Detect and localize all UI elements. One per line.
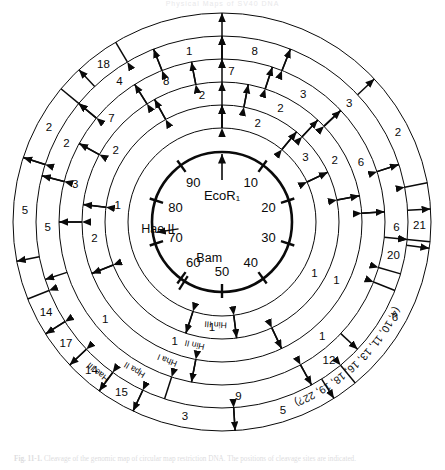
fragment-boundary xyxy=(407,240,430,242)
fragment-size-label: 1 xyxy=(171,335,177,347)
scale-tick-label: 10 xyxy=(244,175,258,190)
fragment-size-label: 4 xyxy=(116,75,123,87)
caption-label: Fig. 11-1. xyxy=(14,455,42,463)
fragment-boundary xyxy=(384,237,407,239)
fragment-size-label: 8 xyxy=(251,45,257,57)
fragment-size-label: 3 xyxy=(182,410,188,422)
fragment-boundary xyxy=(92,265,113,273)
scale-tick-label: 90 xyxy=(186,175,200,190)
fragment-boundary xyxy=(135,84,147,103)
fragment-size-label: 2 xyxy=(395,126,401,138)
fragment-size-label: 7 xyxy=(108,112,114,124)
fragment-size-label: 2 xyxy=(199,89,205,101)
fragment-boundary xyxy=(234,315,237,338)
fragment-size-label: 18 xyxy=(97,58,110,70)
fragment-boundary xyxy=(133,390,143,411)
fragment-size-label: 1 xyxy=(102,313,108,325)
multi-fragment-note: (4, 10, 11, 13, 16, 18, 19, 22?) xyxy=(293,305,403,409)
scale-ticks-group: 102030405060708090EcoR₁Hae IIBam xyxy=(141,154,294,298)
fragment-size-label: 1 xyxy=(186,45,192,57)
fragment-boundary xyxy=(324,110,341,126)
hae2-site-label: Hae II xyxy=(141,222,174,236)
caption-text: Cleavage of the genomic map of circular … xyxy=(44,455,356,463)
fragment-boundary xyxy=(302,120,318,137)
ring-enzyme-label-3: Hpa II xyxy=(122,360,147,380)
fragment-boundary xyxy=(374,282,395,290)
ring-enzyme-label-2: Hha I xyxy=(156,352,179,369)
scale-tick-label: 50 xyxy=(215,264,229,279)
fragment-boundary xyxy=(307,172,328,182)
fragment-size-label: 8 xyxy=(163,75,169,87)
bottom-note-group: (4, 10, 11, 13, 16, 18, 19, 22?) xyxy=(293,304,404,410)
fragment-boundary xyxy=(116,42,128,62)
fragment-boundary xyxy=(282,49,290,70)
fragment-boundary xyxy=(272,328,282,349)
ring-enzyme-label-1: Hin II xyxy=(184,338,206,352)
scale-tick-label: 20 xyxy=(261,200,275,215)
fragment-boundary xyxy=(83,204,106,207)
fragment-size-label: 2 xyxy=(63,137,69,149)
fragment-size-label: 5 xyxy=(22,204,28,216)
fragment-size-label: 2 xyxy=(46,121,52,133)
fragment-size-label: 1 xyxy=(319,330,325,342)
fragment-boundary xyxy=(379,267,401,273)
fragment-size-label: 7 xyxy=(228,65,234,77)
fragment-boundary xyxy=(408,209,431,210)
fragment-boundary xyxy=(337,196,360,200)
fragment-size-label: 6 xyxy=(393,221,399,233)
fragment-boundary xyxy=(407,245,430,248)
fragment-size-label: 1 xyxy=(311,267,317,279)
fragment-boundary xyxy=(79,103,97,118)
fragment-boundary xyxy=(358,79,375,95)
fragment-size-label: 21 xyxy=(413,219,426,231)
enzyme-ring-labels-group: Hin IIIHin IIHha IHpa IIHae III xyxy=(85,319,227,384)
fragment-size-label: 20 xyxy=(387,249,400,261)
fragment-boundary xyxy=(377,165,399,172)
fragment-boundary xyxy=(362,212,385,213)
fragment-boundary xyxy=(17,257,40,261)
fragment-size-label: 15 xyxy=(115,386,128,398)
fragment-boundary xyxy=(186,311,193,333)
fragment-boundary xyxy=(79,70,95,87)
fragment-boundary xyxy=(341,334,358,350)
fragment-boundary xyxy=(165,377,172,399)
fragment-boundary xyxy=(61,89,79,104)
ring-enzyme-label-0: Hin III xyxy=(204,319,227,330)
fragment-size-label: 2 xyxy=(91,232,97,244)
radial-boundaries-group xyxy=(17,13,431,431)
fragment-boundary xyxy=(244,84,248,107)
fragment-size-label: 5 xyxy=(280,404,286,416)
fragment-size-label: 9 xyxy=(235,390,241,402)
fragment-boundary xyxy=(42,176,64,182)
ring-circle-2 xyxy=(105,105,339,339)
fragment-size-label: 17 xyxy=(60,337,73,349)
fragment-size-label: 3 xyxy=(302,151,308,163)
fragment-boundary xyxy=(23,157,45,164)
fragment-size-label: 5 xyxy=(44,221,50,233)
fragment-boundary xyxy=(265,67,272,89)
fragment-size-label: 3 xyxy=(346,97,352,109)
fragment-boundary xyxy=(155,99,166,119)
scale-tick-label: 30 xyxy=(261,230,275,245)
fragment-size-label: 14 xyxy=(40,306,53,318)
fragment-size-label: 1 xyxy=(115,199,121,211)
fragment-boundary xyxy=(79,143,99,154)
ecor1-label: EcoR₁ xyxy=(204,188,241,203)
fragment-size-label: 2 xyxy=(255,117,261,129)
fragment-boundary xyxy=(191,360,195,383)
fragment-size-label: 1 xyxy=(333,274,339,286)
fragment-size-label: 6 xyxy=(358,156,364,168)
sv40-restriction-map-figure: 1231122211227361137883620912524118251417… xyxy=(0,0,445,470)
scale-tick-label: 40 xyxy=(244,255,258,270)
fragment-boundary xyxy=(191,62,195,85)
fragment-boundary xyxy=(234,408,235,431)
fragment-boundary xyxy=(45,272,67,279)
fragment-size-label: 3 xyxy=(300,88,306,100)
fragment-size-label: 2 xyxy=(277,102,283,114)
fragment-size-label: 2 xyxy=(113,144,119,156)
fragment-size-label: 2 xyxy=(331,154,337,166)
bam-site-label: Bam xyxy=(196,251,222,265)
fragment-boundary xyxy=(154,49,162,70)
fragment-boundary xyxy=(70,349,87,365)
fragment-boundary xyxy=(405,183,428,187)
